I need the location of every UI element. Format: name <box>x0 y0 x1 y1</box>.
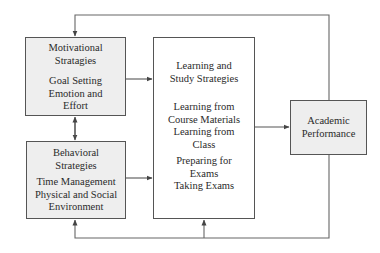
box-item: Goal Setting <box>49 75 102 88</box>
box-item: Taking Exams <box>174 180 234 193</box>
box-title-line: Academic <box>307 115 350 128</box>
motivational-strategies-box: Motivational Stratagies Goal Setting Emo… <box>25 37 126 116</box>
box-item: Emotion and <box>49 88 103 101</box>
box-item: Effort <box>63 100 88 113</box>
box-title-line: Behavioral <box>53 147 99 160</box>
box-title-line: Study Strategies <box>170 73 239 86</box>
academic-performance-box: Academic Performance <box>290 100 367 155</box>
box-title-line: Stratagies <box>55 55 96 68</box>
box-item: Physical and Social <box>35 189 117 202</box>
box-title-line: Performance <box>302 128 356 141</box>
box-title-line: Motivational <box>48 42 102 55</box>
box-item: Environment <box>49 201 104 214</box>
box-item: Class <box>193 139 216 152</box>
behavioral-strategies-box: Behavioral Strategies Time Management Ph… <box>26 141 126 219</box>
box-title-line: Strategies <box>55 160 96 173</box>
box-item: Time Management <box>36 176 115 189</box>
box-item: Course Materials <box>168 114 240 127</box>
box-item: Learning from <box>174 126 235 139</box>
learning-study-strategies-box: Learning and Study Strategies Learning f… <box>153 37 255 219</box>
box-item: Exams <box>190 168 219 181</box>
box-title-line: Learning and <box>176 60 232 73</box>
box-item: Learning from <box>174 101 235 114</box>
box-item: Preparing for <box>176 155 232 168</box>
